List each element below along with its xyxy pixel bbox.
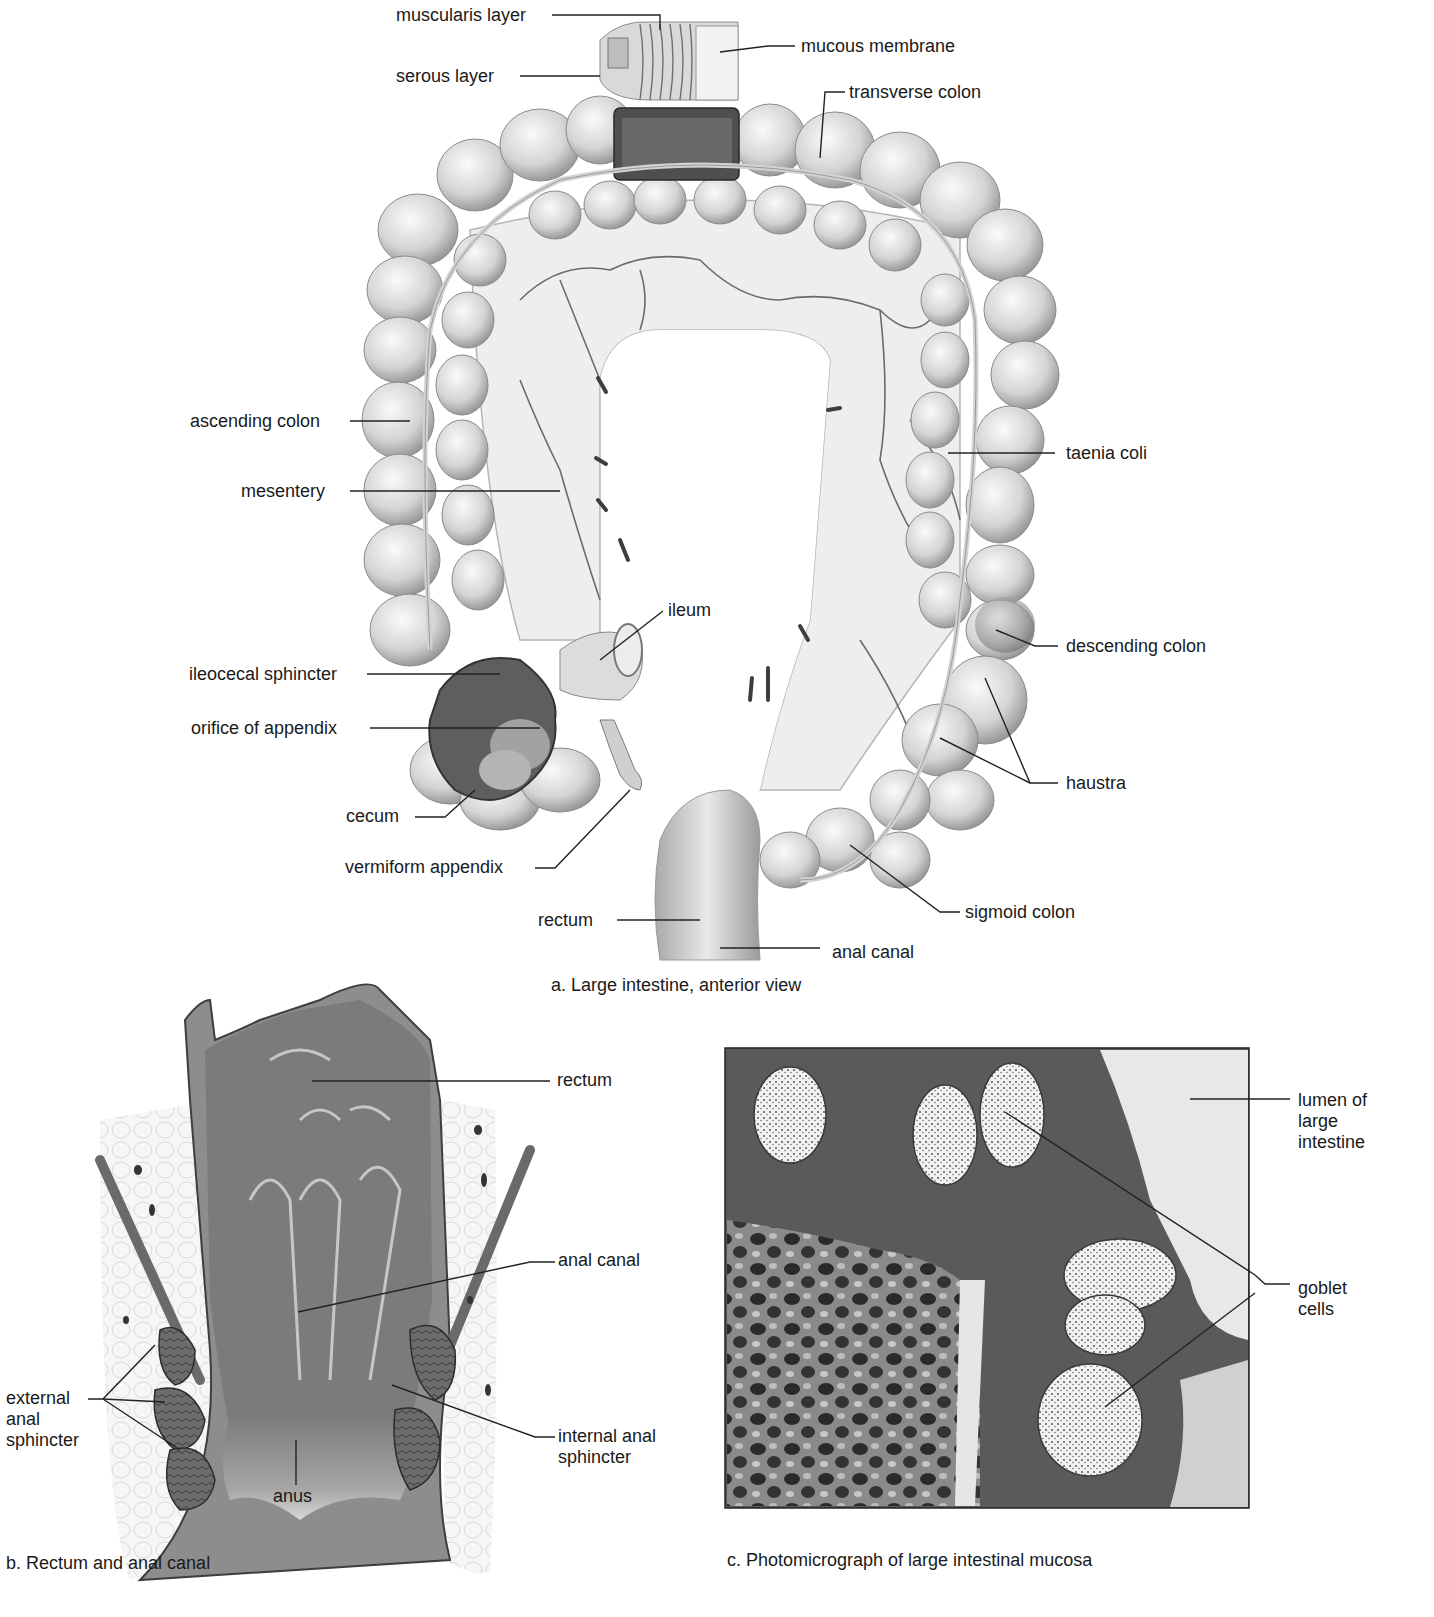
label-descending-colon: descending colon bbox=[1066, 636, 1206, 657]
caption-panel-a: a. Large intestine, anterior view bbox=[551, 975, 801, 996]
label-internal-anal-sphincter: internal anal sphincter bbox=[558, 1426, 688, 1468]
figure-artwork bbox=[0, 0, 1434, 1617]
label-anal-canal: anal canal bbox=[832, 942, 914, 963]
label-mucous-membrane: mucous membrane bbox=[801, 36, 955, 57]
rectum-anal-canal-illustration bbox=[100, 984, 530, 1580]
label-goblet-cells: goblet cells bbox=[1298, 1278, 1358, 1320]
label-ileum: ileum bbox=[668, 600, 711, 621]
label-transverse-colon: transverse colon bbox=[849, 82, 981, 103]
label-rectum: rectum bbox=[538, 910, 593, 931]
label-b-anal-canal: anal canal bbox=[558, 1250, 640, 1271]
label-anus: anus bbox=[273, 1486, 312, 1507]
wall-layers-detail bbox=[600, 22, 738, 100]
label-ileocecal-sphincter: ileocecal sphincter bbox=[189, 664, 337, 685]
label-sigmoid-colon: sigmoid colon bbox=[965, 902, 1075, 923]
label-taenia-coli: taenia coli bbox=[1066, 443, 1147, 464]
label-muscularis-layer: muscularis layer bbox=[396, 5, 526, 26]
label-cecum: cecum bbox=[346, 806, 399, 827]
label-b-rectum: rectum bbox=[557, 1070, 612, 1091]
micrograph-image bbox=[725, 1048, 1249, 1508]
label-ascending-colon: ascending colon bbox=[190, 411, 320, 432]
label-haustra: haustra bbox=[1066, 773, 1126, 794]
caption-panel-b: b. Rectum and anal canal bbox=[6, 1553, 210, 1574]
label-orifice-of-appendix: orifice of appendix bbox=[191, 718, 337, 739]
label-mesentery: mesentery bbox=[241, 481, 325, 502]
caption-panel-c: c. Photomicrograph of large intestinal m… bbox=[727, 1550, 1092, 1571]
label-lumen-of-large-intestine: lumen of large intestine bbox=[1298, 1090, 1398, 1153]
label-serous-layer: serous layer bbox=[396, 66, 494, 87]
label-vermiform-appendix: vermiform appendix bbox=[345, 857, 503, 878]
label-external-anal-sphincter: external anal sphincter bbox=[6, 1388, 96, 1451]
